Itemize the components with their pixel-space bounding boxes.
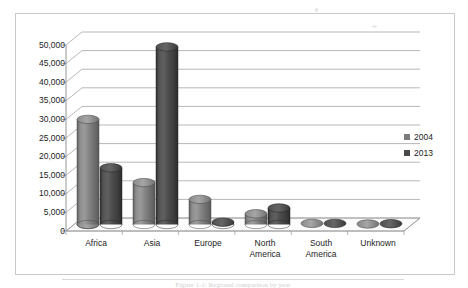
- legend-item-2013[interactable]: 2013: [404, 145, 450, 161]
- legend-item-2004[interactable]: 2004: [404, 129, 450, 145]
- legend-swatch-icon: [404, 134, 410, 140]
- caption-divider: [62, 279, 404, 280]
- scan-speck: [315, 8, 318, 12]
- x-tick-label-asia: Asia: [124, 238, 180, 249]
- x-axis-labels: Africa Asia Europe North America South A…: [0, 0, 468, 288]
- x-tick-label-north-america: North America: [237, 238, 293, 259]
- scan-speck: [372, 25, 377, 28]
- legend-swatch-icon: [404, 150, 410, 156]
- figure-caption: Figure 1-1: Regional comparison by year: [62, 281, 404, 288]
- x-tick-label-unknown: Unknown: [349, 238, 407, 249]
- x-tick-label-africa: Africa: [68, 238, 124, 249]
- legend-label: 2004: [414, 133, 433, 142]
- x-tick-label-south-america: South America: [293, 238, 349, 259]
- x-tick-label-europe: Europe: [180, 238, 236, 249]
- chart-legend: 2004 2013: [404, 129, 450, 161]
- legend-label: 2013: [414, 149, 433, 158]
